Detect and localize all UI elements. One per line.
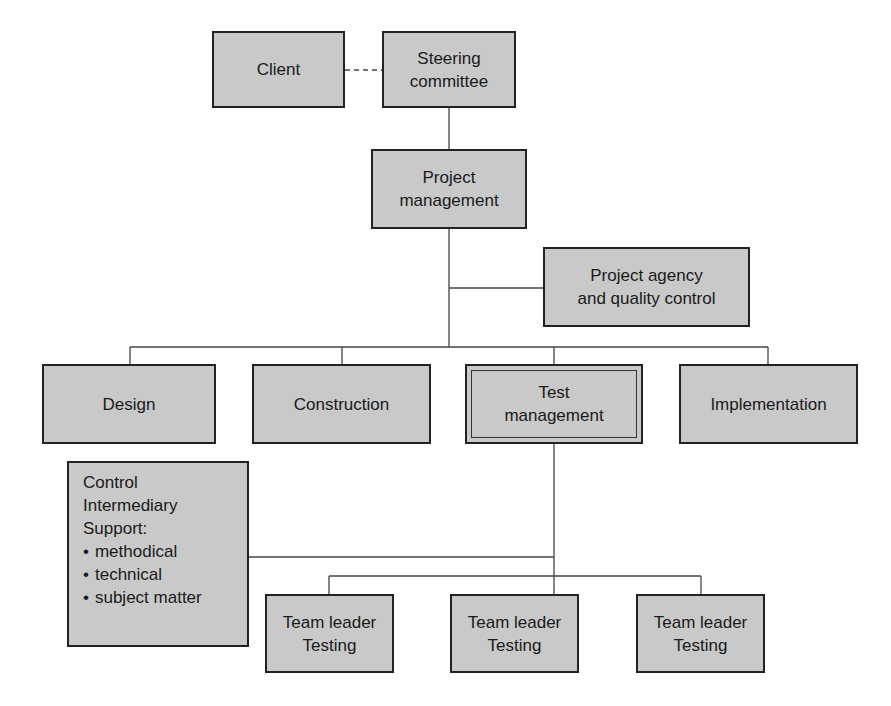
node-implementation: Implementation — [679, 364, 858, 444]
node-test-management: Test management — [465, 364, 643, 444]
bullet-item: subject matter — [83, 586, 202, 609]
control-line: Support: — [83, 517, 202, 540]
node-label: Client — [257, 58, 300, 81]
node-label: Test management — [504, 381, 603, 427]
node-label: Team leader Testing — [468, 611, 562, 657]
node-design: Design — [42, 364, 216, 444]
node-control-support: Control Intermediary Support: methodical… — [67, 461, 249, 647]
node-team-leader-2: Team leader Testing — [450, 594, 579, 673]
node-project-agency: Project agency and quality control — [543, 247, 750, 327]
node-client: Client — [212, 31, 345, 108]
node-label: Project management — [399, 166, 498, 212]
node-construction: Construction — [252, 364, 431, 444]
node-team-leader-1: Team leader Testing — [265, 594, 394, 673]
node-label: Team leader Testing — [654, 611, 748, 657]
control-line: Intermediary — [83, 494, 202, 517]
node-team-leader-3: Team leader Testing — [636, 594, 765, 673]
support-bullets: methodical technical subject matter — [83, 540, 202, 609]
node-label: Steering committee — [410, 47, 488, 93]
node-label: Design — [103, 393, 156, 416]
node-project-management: Project management — [371, 149, 527, 229]
node-label: Team leader Testing — [283, 611, 377, 657]
node-label: Implementation — [710, 393, 826, 416]
node-label: Project agency and quality control — [578, 264, 716, 310]
node-steering-committee: Steering committee — [382, 31, 516, 108]
node-label: Construction — [294, 393, 389, 416]
bullet-item: technical — [83, 563, 202, 586]
node-test-management-inner-border: Test management — [471, 370, 637, 438]
control-line: Control — [83, 471, 202, 494]
bullet-item: methodical — [83, 540, 202, 563]
